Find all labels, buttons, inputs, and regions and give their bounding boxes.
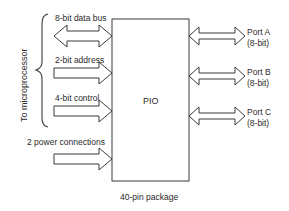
port-b-name: Port B — [247, 67, 271, 77]
port-a-arrow — [189, 27, 245, 45]
port-a-name: Port A — [247, 27, 270, 37]
port-c-width: (8-bit) — [247, 118, 269, 128]
data-bus-arrow — [54, 25, 112, 47]
power-arrow — [54, 148, 112, 170]
port-a-width: (8-bit) — [247, 38, 269, 48]
port-b-width: (8-bit) — [247, 78, 269, 88]
address-arrow — [54, 62, 112, 84]
chip-label: PIO — [143, 96, 159, 106]
microprocessor-brace — [36, 14, 48, 127]
port-c-name: Port C — [247, 107, 271, 117]
data-bus-label: 8-bit data bus — [55, 13, 107, 23]
control-arrow — [54, 100, 112, 122]
control-label: 4-bit control — [55, 93, 99, 103]
power-label: 2 power connections — [27, 137, 105, 147]
port-c-arrow — [189, 107, 245, 125]
port-b-arrow — [189, 67, 245, 85]
address-label: 2-bit address — [55, 55, 104, 65]
side-label: To microprocessor — [19, 48, 29, 122]
package-label: 40-pin package — [120, 192, 178, 202]
